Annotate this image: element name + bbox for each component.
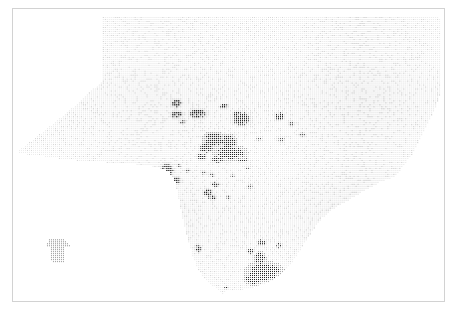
dot-density-map-canvas (13, 9, 444, 301)
plot-frame (12, 8, 445, 302)
map-figure (0, 0, 457, 313)
